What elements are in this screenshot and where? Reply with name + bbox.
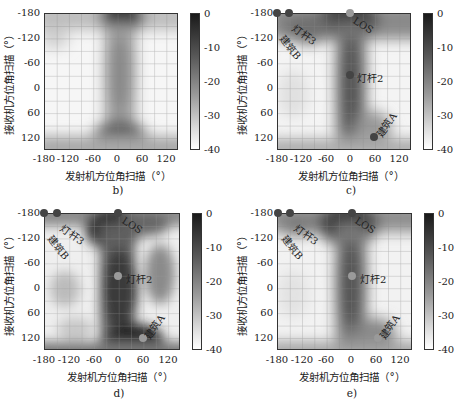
- x-tick: 120: [151, 154, 181, 164]
- y-tick: -60: [12, 258, 40, 268]
- cbar-tick: -30: [438, 311, 454, 321]
- cbar-tick: 0: [206, 209, 212, 219]
- marker-pole-3: [53, 209, 61, 217]
- marker-pole-2: [348, 272, 356, 280]
- y-tick: -120: [245, 233, 273, 243]
- colorbar-d: [192, 213, 202, 350]
- marker-los: [346, 9, 354, 17]
- cbar-tick: -40: [204, 145, 220, 155]
- cbar-tick: -40: [206, 345, 222, 355]
- colorbar-c: [423, 13, 433, 150]
- marker-pole-3: [286, 209, 294, 217]
- y-tick: 120: [245, 133, 273, 143]
- cbar-tick: -10: [437, 43, 453, 53]
- y-tick: 0: [245, 283, 273, 293]
- cbar-tick: -10: [438, 243, 454, 253]
- annotation-pole-2: 灯杆2: [126, 271, 152, 286]
- cbar-tick: -20: [206, 277, 222, 287]
- cbar-tick: 0: [437, 9, 443, 19]
- cbar-tick: -20: [204, 77, 220, 87]
- y-axis-label: 接收机方位角扫描（°）: [1, 13, 16, 153]
- marker-los: [114, 209, 122, 217]
- panel-caption: d): [104, 387, 134, 399]
- y-axis-label: 接收机方位角扫描（°）: [1, 214, 16, 354]
- colorbar-b: [190, 13, 200, 150]
- y-tick: 60: [12, 108, 40, 118]
- marker-building-b: [273, 9, 281, 17]
- cbar-tick: -40: [437, 145, 453, 155]
- annotation-pole-2: 灯杆2: [360, 271, 386, 286]
- x-axis-label: 发射机方位角扫描（°）: [38, 168, 198, 183]
- y-tick: -180: [12, 208, 40, 218]
- y-tick: -60: [12, 58, 40, 68]
- marker-building-b: [274, 209, 282, 217]
- y-tick: -180: [12, 8, 40, 18]
- colorbar-e: [424, 213, 434, 350]
- marker-pole-3: [285, 9, 293, 17]
- heatmap-b-image: [45, 14, 178, 150]
- x-axis-label: 发射机方位角扫描（°）: [271, 168, 431, 183]
- x-tick: 120: [153, 355, 183, 365]
- cbar-tick: -20: [438, 277, 454, 287]
- y-tick: -120: [12, 33, 40, 43]
- y-tick: 120: [245, 333, 273, 343]
- y-axis-label: 接收机方位角扫描（°）: [234, 13, 249, 153]
- marker-los: [348, 209, 356, 217]
- y-tick: -120: [245, 33, 273, 43]
- cbar-tick: -20: [437, 77, 453, 87]
- y-tick: -180: [245, 8, 273, 18]
- y-tick: 0: [12, 83, 40, 93]
- y-tick: -180: [245, 208, 273, 218]
- y-tick: 60: [12, 308, 40, 318]
- marker-pole-2: [346, 71, 354, 79]
- cbar-tick: -30: [204, 111, 220, 121]
- y-tick: 60: [245, 308, 273, 318]
- heatmap-b: [44, 13, 178, 150]
- cbar-tick: -10: [206, 243, 222, 253]
- x-axis-label: 发射机方位角扫描（°）: [272, 369, 432, 384]
- marker-building-b: [40, 209, 48, 217]
- marker-pole-2: [114, 272, 122, 280]
- annotation-pole-2: 灯杆2: [357, 70, 383, 85]
- x-tick: 120: [385, 355, 415, 365]
- cbar-tick: -30: [206, 311, 222, 321]
- y-tick: 120: [12, 133, 40, 143]
- y-tick: -60: [245, 58, 273, 68]
- panel-caption: b): [103, 184, 133, 196]
- x-axis-label: 发射机方位角扫描（°）: [40, 369, 200, 384]
- cbar-tick: 0: [438, 209, 444, 219]
- y-tick: 0: [245, 83, 273, 93]
- panel-caption: c): [336, 184, 366, 196]
- y-tick: 0: [12, 283, 40, 293]
- x-tick: 120: [384, 154, 414, 164]
- cbar-tick: -40: [438, 345, 454, 355]
- y-axis-label: 接收机方位角扫描（°）: [234, 214, 249, 354]
- cbar-tick: 0: [204, 9, 210, 19]
- y-tick: 60: [245, 108, 273, 118]
- panel-caption: e): [337, 387, 367, 399]
- y-tick: -60: [245, 258, 273, 268]
- y-tick: 120: [12, 333, 40, 343]
- y-tick: -120: [12, 233, 40, 243]
- cbar-tick: -30: [437, 111, 453, 121]
- cbar-tick: -10: [204, 43, 220, 53]
